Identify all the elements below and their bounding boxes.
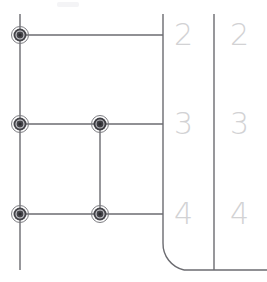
node-r4-c2[interactable] [92, 206, 109, 223]
drawing-vector-layer [0, 0, 267, 282]
outer-row-label-4: 4 [230, 199, 249, 229]
inner-row-label-3: 3 [174, 109, 193, 139]
inner-row-label-2: 2 [174, 20, 193, 50]
top-scuff-mark [57, 2, 79, 7]
node-r3-c1[interactable] [12, 116, 29, 133]
bottom-left-fillet-path [163, 243, 184, 270]
outer-row-label-3: 3 [230, 109, 249, 139]
node-r3-c2[interactable] [92, 116, 109, 133]
node-r4-c1[interactable] [12, 206, 29, 223]
outer-row-label-2: 2 [230, 20, 249, 50]
technical-drawing-canvas: 2 3 4 2 3 4 [0, 0, 267, 282]
inner-row-label-4: 4 [174, 199, 193, 229]
node-r2-c1[interactable] [12, 27, 29, 44]
